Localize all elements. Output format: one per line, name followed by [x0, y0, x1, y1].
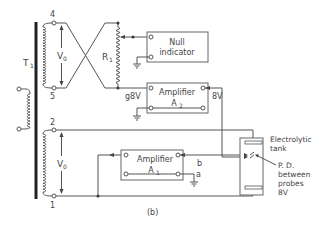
svg-text:Electrolytic: Electrolytic: [270, 135, 312, 144]
top-secondary-winding: 4 5 V 0: [43, 10, 67, 101]
terminal-5: [52, 86, 56, 90]
svg-text:tank: tank: [270, 144, 287, 153]
terminal-2: [52, 128, 56, 132]
svg-text:b: b: [197, 159, 202, 168]
svg-text:a: a: [196, 170, 201, 179]
a2-input-label: g8V: [125, 92, 141, 101]
terminal-1: [52, 194, 56, 198]
electrolytic-tank: Electrolytic tank P. D. between probes 8…: [240, 135, 312, 197]
svg-text:2: 2: [50, 118, 55, 127]
svg-text:8V: 8V: [212, 92, 223, 101]
svg-text:8V: 8V: [278, 188, 289, 197]
top-electrode: [245, 141, 262, 144]
amplifier-a2: Amplifier A 2 8V: [133, 83, 248, 157]
svg-text:indicator: indicator: [159, 48, 195, 57]
bottom-electrode: [245, 186, 262, 189]
svg-text:Amplifier: Amplifier: [159, 88, 196, 97]
svg-text:A: A: [171, 99, 177, 108]
primary-terminal-top: [17, 87, 21, 91]
figure-caption: (b): [147, 208, 158, 217]
terminal-2-lead: [56, 130, 253, 141]
svg-text:P. D.: P. D.: [278, 161, 294, 170]
svg-text:between: between: [278, 170, 311, 179]
primary-winding: [17, 87, 30, 131]
svg-text:probes: probes: [278, 179, 304, 188]
terminal-4: [52, 21, 56, 25]
svg-text:1: 1: [30, 62, 34, 69]
transformer-core: [35, 22, 38, 199]
r1-wiper: [120, 35, 150, 39]
svg-text:R: R: [102, 52, 108, 62]
transformer-label: T 1: [22, 58, 34, 69]
svg-text:5: 5: [50, 92, 55, 101]
svg-text:Null: Null: [169, 38, 185, 47]
svg-text:T: T: [22, 58, 29, 68]
svg-text:1: 1: [156, 169, 160, 176]
svg-text:Amplifier: Amplifier: [137, 155, 174, 164]
resistor-r1: R 1: [102, 22, 120, 90]
svg-text:0: 0: [63, 163, 67, 170]
svg-text:1: 1: [50, 201, 55, 210]
svg-text:4: 4: [50, 10, 55, 19]
svg-text:1: 1: [109, 56, 113, 63]
svg-text:0: 0: [63, 55, 67, 62]
amplifier-a1: Amplifier A 1 b a: [121, 150, 248, 186]
primary-terminal-bottom: [17, 127, 21, 131]
circuit-diagram: T 1 4 5 V 0 2 1 V 0: [0, 0, 328, 230]
